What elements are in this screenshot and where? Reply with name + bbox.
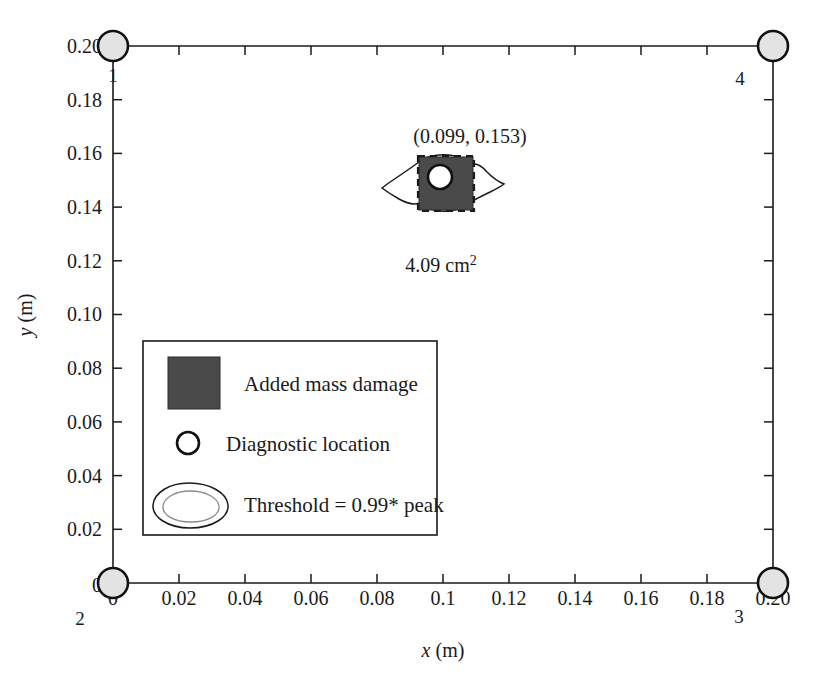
sensor-node-label: 1 <box>108 65 118 86</box>
x-tick-label: 0.04 <box>228 587 263 609</box>
area-annotation-exponent: 2 <box>470 253 477 268</box>
y-axis-ticks-right <box>764 100 773 530</box>
y-tick-label: 0.18 <box>67 89 102 111</box>
y-tick-label: 0.14 <box>67 196 102 218</box>
y-tick-label: 0.02 <box>67 518 102 540</box>
sensor-node-label: 2 <box>75 608 85 629</box>
x-tick-label: 0.14 <box>558 587 593 609</box>
x-tick-label: 0.06 <box>294 587 329 609</box>
sensor-node-marker[interactable] <box>758 568 788 598</box>
sensor-node-label: 4 <box>735 68 745 89</box>
legend-label: Diagnostic location <box>226 432 390 456</box>
sensor-node-marker[interactable] <box>98 568 128 598</box>
legend: Added mass damage Diagnostic location Th… <box>143 341 444 535</box>
y-axis-title: y (m) <box>14 294 37 339</box>
sensor-node-group: 1 4 2 3 <box>75 31 788 629</box>
x-axis-tick-labels: 0 0.02 0.04 0.06 0.08 0.1 0.12 0.14 0.16… <box>108 587 791 609</box>
open-circle-icon <box>177 432 199 454</box>
y-axis-title-symbol: y <box>14 327 37 338</box>
figure-container: 0 0.02 0.04 0.06 0.08 0.1 0.12 0.14 0.16… <box>0 0 823 678</box>
filled-square-icon <box>168 357 220 409</box>
y-tick-label: 0.04 <box>67 465 102 487</box>
sensor-node-marker[interactable] <box>98 31 128 61</box>
sensor-node-label: 3 <box>734 606 744 627</box>
x-tick-label: 0.08 <box>360 587 395 609</box>
x-tick-label: 0.12 <box>492 587 527 609</box>
y-tick-label: 0.06 <box>67 411 102 433</box>
damage-localization-plot: 0 0.02 0.04 0.06 0.08 0.1 0.12 0.14 0.16… <box>0 0 823 678</box>
area-annotation-value: 4.09 cm <box>405 254 470 276</box>
x-axis-title-symbol: x <box>421 639 431 661</box>
diagnostic-location-marker[interactable] <box>428 165 452 189</box>
y-tick-label: 0.12 <box>67 250 102 272</box>
area-annotation: 4.09 cm2 <box>405 253 476 277</box>
x-tick-label: 0.02 <box>162 587 197 609</box>
y-axis-title-unit: (m) <box>14 294 37 328</box>
y-tick-label: 0.08 <box>67 357 102 379</box>
legend-label: Added mass damage <box>244 372 418 396</box>
sensor-node-marker[interactable] <box>758 31 788 61</box>
x-axis-title: x (m) <box>421 639 465 662</box>
x-tick-label: 0.16 <box>624 587 659 609</box>
x-tick-label: 0.1 <box>431 587 456 609</box>
y-axis-ticks-left <box>113 100 122 530</box>
x-tick-label: 0.18 <box>690 587 725 609</box>
coordinate-annotation: (0.099, 0.153) <box>413 125 526 148</box>
legend-label: Threshold = 0.99* peak <box>244 493 444 517</box>
x-axis-ticks-top <box>179 46 707 55</box>
x-axis-title-unit: (m) <box>431 639 465 662</box>
y-axis-tick-labels: 0 0.02 0.04 0.06 0.08 0.10 0.12 0.14 0.1… <box>67 35 102 596</box>
y-tick-label: 0.10 <box>67 303 102 325</box>
y-tick-label: 0.16 <box>67 142 102 164</box>
damage-region-group <box>382 155 504 211</box>
x-axis-ticks-bottom <box>179 574 707 583</box>
